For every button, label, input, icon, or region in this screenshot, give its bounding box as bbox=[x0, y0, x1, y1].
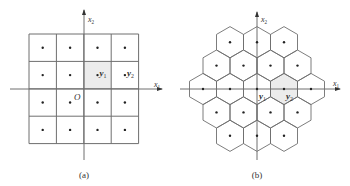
lattice-point bbox=[96, 74, 98, 76]
lattice-point bbox=[283, 135, 285, 137]
lattice-point bbox=[69, 74, 71, 76]
lattice-point bbox=[42, 101, 44, 103]
lattice-point bbox=[215, 64, 217, 66]
point-label-y1: y1 bbox=[258, 91, 266, 102]
lattice-point bbox=[42, 47, 44, 49]
lattice-point bbox=[215, 111, 217, 113]
lattice-point bbox=[69, 129, 71, 131]
lattice-point bbox=[296, 64, 298, 66]
lattice-point bbox=[96, 129, 98, 131]
caption-b: (b) bbox=[252, 170, 263, 180]
lattice-point bbox=[229, 88, 231, 90]
lattice-point bbox=[124, 74, 126, 76]
lattice-point bbox=[296, 111, 298, 113]
lattice-point bbox=[283, 41, 285, 43]
lattice-point bbox=[69, 101, 71, 103]
lattice-point bbox=[124, 129, 126, 131]
origin-label: O bbox=[74, 92, 81, 102]
lattice-point bbox=[229, 135, 231, 137]
lattice-point bbox=[124, 47, 126, 49]
point-label-y2: y2 bbox=[126, 68, 134, 79]
lattice-point bbox=[42, 74, 44, 76]
panel-a-square-lattice: x2x1Oy1y2 bbox=[10, 10, 162, 160]
lattice-point bbox=[283, 88, 285, 90]
lattice-point bbox=[256, 88, 258, 90]
lattice-point bbox=[69, 47, 71, 49]
lattice-point bbox=[256, 41, 258, 43]
panel-b-hexagonal-lattice: x2x1y1y2 bbox=[180, 12, 340, 160]
lattice-point bbox=[202, 88, 204, 90]
x1-axis-label: x1 bbox=[153, 80, 161, 90]
lattice-point bbox=[229, 41, 231, 43]
lattice-point bbox=[310, 88, 312, 90]
lattice-point bbox=[269, 64, 271, 66]
lattice-point bbox=[96, 101, 98, 103]
lattice-point bbox=[124, 101, 126, 103]
lattice-point bbox=[269, 111, 271, 113]
lattice-point bbox=[242, 111, 244, 113]
lattice-point bbox=[96, 47, 98, 49]
lattice-point bbox=[242, 64, 244, 66]
lattice-point bbox=[42, 129, 44, 131]
lattice-figure: x2x1Oy1y2 x2x1y1y2 (a) (b) bbox=[0, 0, 350, 186]
x2-axis-label: x2 bbox=[87, 15, 95, 25]
caption-a: (a) bbox=[79, 170, 89, 180]
x2-axis-label: x2 bbox=[260, 15, 268, 25]
lattice-point bbox=[256, 135, 258, 137]
x1-axis-label: x1 bbox=[332, 79, 340, 89]
